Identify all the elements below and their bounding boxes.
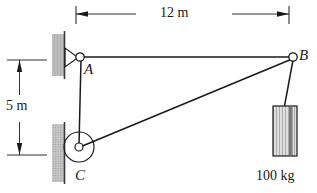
hanging-mass-block	[273, 106, 297, 156]
pin-joint-b	[289, 53, 297, 61]
pulley-hub	[75, 143, 83, 151]
lower-wall-hatch	[52, 124, 64, 182]
point-label-c: C	[75, 168, 85, 183]
dimension-arrow-right	[277, 11, 289, 17]
dimension-arrow-left	[76, 11, 88, 17]
upper-wall-hatch	[52, 34, 64, 76]
point-label-a: A	[84, 62, 93, 77]
dimension-arrow-top	[17, 60, 22, 72]
statics-diagram: 12 m 5 m A B C 100 kg	[0, 0, 317, 193]
mass-label: 100 kg	[256, 169, 295, 183]
pin-joint-a	[76, 53, 84, 61]
vertical-dimension-label: 5 m	[6, 99, 27, 113]
point-label-b: B	[299, 48, 308, 63]
pulley-c	[64, 132, 94, 162]
diagram-canvas	[0, 0, 317, 193]
lower-wall-support	[52, 122, 65, 184]
hanger-b-load	[285, 60, 294, 106]
horizontal-dimension-label: 12 m	[160, 6, 188, 20]
cable-c-b	[80, 59, 292, 147]
dimension-arrow-bottom	[17, 143, 22, 155]
cable-group	[79, 57, 293, 147]
mass-block-body	[273, 106, 297, 156]
upper-wall-support	[52, 31, 78, 79]
